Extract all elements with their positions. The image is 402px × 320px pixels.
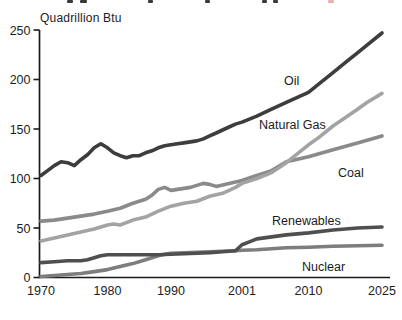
y-axis-tick-label: 150 — [10, 123, 31, 137]
series-label-nuclear: Nuclear — [302, 260, 345, 274]
series-label-coal: Coal — [338, 166, 364, 180]
y-axis-tick-label: 200 — [10, 73, 31, 87]
x-axis-tick-label: 2025 — [368, 284, 396, 298]
x-axis-tick-label: 1990 — [157, 284, 185, 298]
x-axis-tick-label: 2010 — [295, 284, 323, 298]
y-axis-tick-label: 50 — [17, 222, 31, 236]
x-axis-tick-label: 1980 — [94, 284, 122, 298]
series-line-oil — [41, 33, 382, 176]
y-axis-tick-label: 0 — [24, 271, 31, 285]
energy-line-chart: Quadrillion Btu 050100150200250197019801… — [0, 0, 402, 320]
x-axis-tick-label: 2001 — [228, 284, 256, 298]
series-label-natural-gas: Natural Gas — [259, 118, 326, 132]
series-label-oil: Oil — [284, 74, 299, 88]
x-axis-tick-label: 1970 — [27, 284, 55, 298]
y-axis-tick-label: 100 — [10, 172, 31, 186]
chart-svg: 050100150200250197019801990200120102025C… — [0, 0, 402, 320]
y-axis-tick-label: 250 — [10, 24, 31, 38]
series-label-renewables: Renewables — [272, 214, 341, 228]
